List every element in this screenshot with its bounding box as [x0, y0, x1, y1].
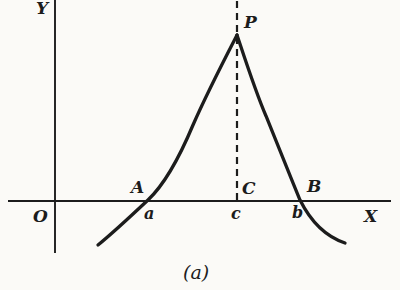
- point-b-label: b: [292, 203, 303, 222]
- point-a-label: a: [144, 204, 154, 223]
- figure-canvas: Y X O P A a C c B b (a): [0, 0, 400, 290]
- point-B-label: B: [306, 176, 321, 196]
- point-C-label: C: [242, 178, 256, 198]
- peak-point-label: P: [243, 12, 258, 32]
- point-c-label: c: [231, 204, 241, 223]
- point-A-label: A: [129, 177, 144, 197]
- cusp-curve-figure: Y X O P A a C c B b (a): [0, 0, 400, 290]
- paper-background: [0, 0, 400, 290]
- y-axis-label: Y: [36, 0, 50, 18]
- origin-label: O: [33, 206, 48, 226]
- figure-caption: (a): [183, 261, 209, 283]
- x-axis-label: X: [363, 206, 378, 226]
